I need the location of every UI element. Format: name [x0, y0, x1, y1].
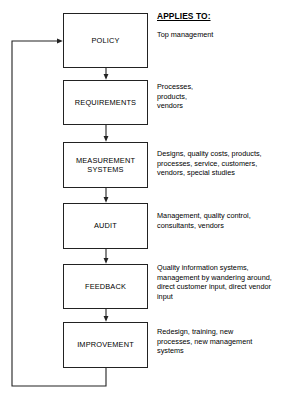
node-audit-label: AUDIT [94, 221, 117, 230]
applies-to-improvement: Redesign, training, new processes, new m… [157, 327, 293, 356]
applies-to-feedback: Quality information systems, management … [157, 263, 293, 301]
node-improvement[interactable]: IMPROVEMENT [63, 322, 148, 368]
node-requirements-label: REQUIREMENTS [75, 98, 136, 107]
node-measurement-systems[interactable]: MEASUREMENT SYSTEMS [63, 142, 148, 188]
node-feedback[interactable]: FEEDBACK [63, 264, 148, 309]
node-improvement-label: IMPROVEMENT [77, 340, 134, 349]
applies-to-measurement-systems: Designs, quality costs, products, proces… [157, 149, 293, 178]
node-policy-label: POLICY [91, 36, 119, 45]
applies-to-header: APPLIES TO: [157, 11, 211, 21]
node-policy[interactable]: POLICY [63, 13, 148, 68]
flowchart-diagram: APPLIES TO: POLICY Top management REQUIR… [0, 0, 295, 398]
applies-to-requirements: Processes, products, vendors [157, 82, 293, 111]
node-requirements[interactable]: REQUIREMENTS [63, 80, 148, 125]
applies-to-audit: Management, quality control, consultants… [157, 211, 293, 230]
node-measurement-systems-label: MEASUREMENT SYSTEMS [76, 156, 135, 175]
node-audit[interactable]: AUDIT [63, 203, 148, 249]
node-feedback-label: FEEDBACK [85, 282, 126, 291]
applies-to-policy: Top management [157, 30, 293, 40]
